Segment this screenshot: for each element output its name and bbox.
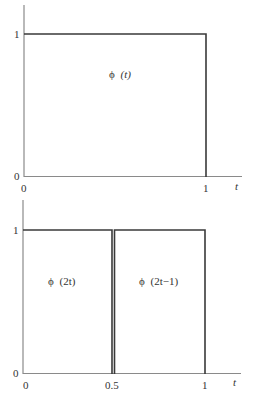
top-y-tick-0: 0 [14, 170, 20, 182]
bottom-phi-2t-curve [23, 230, 112, 374]
bottom-plot: 1 0 0 0.5 1 t ϕ (2t) ϕ (2t−1) [13, 200, 241, 391]
bottom-x-tick-0: 0 [23, 379, 29, 391]
top-x-axis-label: t [235, 180, 239, 192]
phi-argument: (t) [121, 68, 132, 81]
bottom-y-tick-1: 1 [13, 224, 19, 236]
phi-symbol: ϕ [139, 275, 145, 287]
top-phi-t-curve [24, 34, 206, 177]
bottom-phi-2t-minus-1-curve [115, 230, 206, 374]
phi-argument: (2t−1) [151, 275, 179, 288]
bottom-phi-2t-label: ϕ (2t) [48, 275, 76, 288]
phi-symbol: ϕ [48, 275, 54, 287]
haar-scaling-diagram: 1 0 0 1 t ϕ (t) 1 0 0 0.5 1 t ϕ (2t) ϕ (… [0, 0, 255, 398]
top-y-tick-1: 1 [14, 28, 20, 40]
phi-symbol: ϕ [109, 68, 115, 80]
bottom-x-tick-1: 1 [202, 379, 208, 391]
bottom-x-tick-05: 0.5 [105, 379, 119, 391]
phi-argument: (2t) [60, 275, 76, 288]
bottom-phi-2t-minus-1-label: ϕ (2t−1) [139, 275, 178, 288]
top-phi-t-label: ϕ (t) [109, 68, 131, 81]
top-plot: 1 0 0 1 t ϕ (t) [14, 5, 242, 194]
top-x-tick-1: 1 [203, 182, 209, 194]
top-x-tick-0: 0 [21, 182, 27, 194]
bottom-x-axis-label: t [233, 376, 237, 388]
bottom-y-tick-0: 0 [13, 367, 19, 379]
